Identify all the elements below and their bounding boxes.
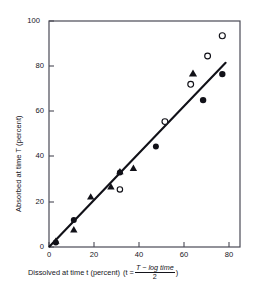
y-tick-label-60: 60 <box>24 106 44 115</box>
x-axis-label-text: Dissolved at time t (percent) <box>28 268 120 277</box>
y-tick-label-20: 20 <box>24 197 44 206</box>
data-point <box>153 143 159 149</box>
data-point <box>219 71 225 77</box>
y-tick-label-40: 40 <box>24 151 44 160</box>
data-point <box>219 33 225 39</box>
fraction-numerator: T − log time <box>135 264 175 272</box>
x-axis-label: Dissolved at time t (percent) (t = T − l… <box>28 264 258 281</box>
axis-frame <box>49 21 240 247</box>
y-axis-ticks <box>49 21 54 247</box>
fraction-denominator: 2 <box>153 273 157 281</box>
y-tick-label-100: 100 <box>20 16 40 25</box>
data-point <box>189 70 197 77</box>
x-tick-label-40: 40 <box>129 250 149 259</box>
x-axis-formula-suffix: ) <box>176 268 178 277</box>
data-series-filled-circle <box>53 71 226 246</box>
data-point <box>70 226 77 232</box>
y-tick-label-0: 0 <box>24 242 44 251</box>
scatter-plot-figure: Absorbed at time T (percent) <box>0 0 260 302</box>
x-tick-label-20: 20 <box>84 250 104 259</box>
data-point <box>130 165 137 171</box>
data-point <box>205 53 211 59</box>
x-tick-label-0: 0 <box>39 250 59 259</box>
x-axis-formula-fraction: T − log time 2 <box>135 264 175 281</box>
x-axis-formula-prefix: (t = <box>123 268 134 277</box>
x-tick-label-80: 80 <box>219 250 239 259</box>
data-point <box>117 187 122 192</box>
x-axis-ticks <box>49 242 229 247</box>
x-tick-label-60: 60 <box>174 250 194 259</box>
data-point <box>71 217 77 223</box>
data-point <box>188 81 194 87</box>
y-tick-label-80: 80 <box>24 61 44 70</box>
data-point <box>200 97 206 103</box>
data-point <box>162 119 168 125</box>
data-point <box>87 193 94 199</box>
